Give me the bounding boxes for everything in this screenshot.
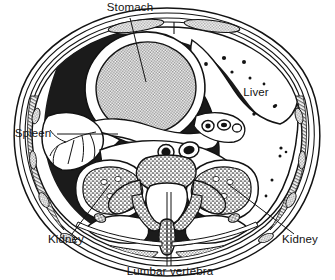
label-liver: Liver xyxy=(243,86,269,98)
abdominal-cross-section-figure: Stomach Liver Spleen Kidney Kidney Lumba… xyxy=(0,0,335,280)
label-lumbar-vertebra: Lumbar vertebra xyxy=(127,265,214,277)
label-stomach: Stomach xyxy=(107,1,153,13)
label-kidney-left: Kidney xyxy=(48,233,84,245)
label-spleen: Spleen xyxy=(15,127,52,139)
label-kidney-right: Kidney xyxy=(282,233,318,245)
